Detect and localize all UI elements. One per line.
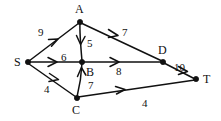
edge-weight-S-A: 9 xyxy=(38,27,44,38)
node-label-A: A xyxy=(75,3,84,15)
edge-weight-C-B: 7 xyxy=(88,80,94,91)
node-label-B: B xyxy=(86,66,94,78)
node-label-S: S xyxy=(14,56,21,68)
edge-weight-D-T: 10 xyxy=(174,62,185,73)
edge-weight-S-B: 6 xyxy=(61,52,67,63)
node-A[interactable] xyxy=(77,19,82,24)
graph-canvas xyxy=(0,0,221,121)
node-label-D: D xyxy=(158,44,167,56)
node-label-T: T xyxy=(203,73,210,85)
edge-S-A xyxy=(29,23,79,61)
node-B[interactable] xyxy=(79,59,84,64)
edge-S-B xyxy=(30,58,81,67)
node-T[interactable] xyxy=(193,76,198,81)
edge-S-C xyxy=(29,64,76,97)
edge-weight-B-D: 8 xyxy=(116,66,122,77)
edge-weight-A-B: 5 xyxy=(87,38,93,49)
edge-C-T xyxy=(78,80,195,97)
node-label-C: C xyxy=(72,104,80,116)
graph-figure: S A B C D T 9 6 4 5 7 8 7 4 10 xyxy=(0,0,221,121)
node-S[interactable] xyxy=(25,59,30,64)
node-C[interactable] xyxy=(74,95,79,100)
edge-C-B xyxy=(77,63,86,97)
edge-weight-S-C: 4 xyxy=(44,84,50,95)
node-D[interactable] xyxy=(160,59,165,64)
edge-weight-A-D: 7 xyxy=(122,27,128,38)
edge-A-B xyxy=(77,23,86,61)
edge-B-D xyxy=(83,58,162,67)
edge-weight-C-T: 4 xyxy=(142,98,148,109)
